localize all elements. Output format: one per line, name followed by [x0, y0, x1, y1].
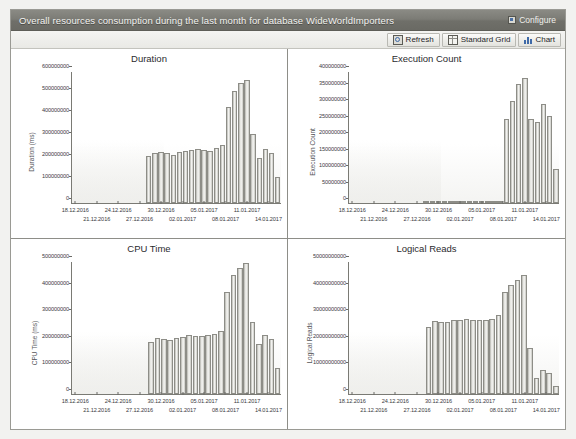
- y-axis-tick-label: 0: [66, 386, 69, 392]
- bar: [423, 201, 428, 203]
- standard-grid-button[interactable]: Standard Grid: [442, 33, 517, 47]
- y-axis-tick-label: 400000000: [42, 280, 69, 286]
- chart-button-label: Chart: [535, 35, 555, 44]
- bar: [183, 151, 188, 203]
- x-axis-ticks: 18.12.201621.12.201624.12.201627.12.2016…: [71, 395, 281, 429]
- bar: [553, 169, 558, 203]
- application-root: Overall resources consumption during the…: [0, 0, 576, 439]
- x-axis-tick-label: 27.12.2016: [403, 216, 430, 222]
- x-axis-tick-mark: [503, 201, 504, 204]
- bar: [180, 337, 186, 394]
- bar: [467, 201, 472, 203]
- bar: [195, 149, 200, 203]
- bar: [464, 319, 470, 394]
- x-axis-tick-label: 24.12.2016: [105, 398, 132, 404]
- x-axis-tick-label: 18.12.2016: [339, 207, 366, 213]
- x-axis-tick-label: 11.01.2017: [511, 207, 538, 213]
- x-axis-tick-mark: [204, 392, 205, 395]
- bar: [161, 339, 167, 394]
- y-axis-tick-label: 100000000: [42, 359, 69, 365]
- bar: [502, 292, 508, 394]
- chart-plot-area: CPU Time (ms) 01000000002000000003000000…: [11, 256, 283, 429]
- bar: [201, 150, 206, 203]
- bar-series: [72, 262, 281, 394]
- refresh-button[interactable]: Refresh: [387, 33, 440, 47]
- plot-canvas: [71, 262, 281, 395]
- bar: [224, 292, 230, 394]
- chart-panel-cpu-time[interactable]: CPU Time CPU Time (ms) 01000000002000000…: [11, 239, 288, 429]
- chart-plot-area: Logical Reads 01000000000020000000000300…: [288, 256, 561, 429]
- bar: [186, 335, 192, 394]
- x-axis-tick-mark: [524, 392, 525, 395]
- bar: [540, 370, 546, 394]
- bar: [477, 320, 483, 394]
- bar: [148, 342, 154, 394]
- bar: [146, 156, 151, 203]
- x-axis-tick-mark: [438, 392, 439, 395]
- x-axis-tick-mark: [460, 201, 461, 204]
- bar: [485, 201, 490, 203]
- plot-canvas: [71, 72, 281, 204]
- y-axis-tick-label: 200000000: [42, 333, 69, 339]
- bar: [547, 116, 552, 203]
- x-axis-tick-mark: [524, 201, 525, 204]
- x-axis-tick-label: 02.01.2017: [169, 216, 196, 222]
- bar: [257, 158, 262, 203]
- bar: [491, 201, 496, 203]
- x-axis-tick-label: 21.12.2016: [360, 407, 387, 413]
- x-axis-tick-label: 14.01.2017: [533, 216, 560, 222]
- bar: [460, 201, 465, 203]
- bar: [237, 268, 243, 394]
- chart-panel-logical-reads[interactable]: Logical Reads Logical Reads 010000000000…: [288, 239, 565, 429]
- charts-grid: Duration Duration (ms) 01000000002000000…: [11, 49, 565, 429]
- x-axis-tick-label: 11.01.2017: [234, 207, 261, 213]
- chart-panel-execution-count[interactable]: Execution Count Execution Count 05000000…: [288, 49, 565, 239]
- bar: [470, 320, 476, 394]
- x-axis-tick-label: 08.01.2017: [212, 216, 239, 222]
- x-axis-tick-mark: [96, 392, 97, 395]
- configure-button[interactable]: Configure: [506, 14, 558, 26]
- x-axis-tick-mark: [118, 392, 119, 395]
- bar-series: [72, 72, 281, 203]
- view-toolbar: Refresh Standard Grid Chart: [11, 31, 565, 49]
- x-axis-tick-mark: [503, 392, 504, 395]
- window-titlebar: Overall resources consumption during the…: [11, 10, 565, 31]
- y-axis-tick-label: 200000000: [319, 129, 346, 135]
- bar: [448, 201, 453, 203]
- bar: [269, 153, 274, 203]
- y-axis-tick-label: 200000000: [42, 151, 69, 157]
- y-axis-tick-label: 0: [343, 195, 346, 201]
- y-axis-tick-label: 20000000000: [313, 333, 346, 339]
- chart-button[interactable]: Chart: [518, 33, 561, 47]
- x-axis-tick-label: 21.12.2016: [360, 216, 387, 222]
- bar: [263, 149, 268, 203]
- y-axis-tick-label: 50000000000: [313, 253, 346, 259]
- y-axis-ticks: 0100000000200000000300000000400000000500…: [21, 262, 69, 395]
- y-axis-tick-label: 300000000: [42, 129, 69, 135]
- bar: [528, 119, 533, 203]
- bar: [199, 336, 205, 394]
- bar: [269, 339, 275, 394]
- chart-panel-duration[interactable]: Duration Duration (ms) 01000000002000000…: [11, 49, 288, 239]
- bar: [516, 84, 521, 203]
- x-axis-tick-mark: [481, 201, 482, 204]
- bar: [174, 338, 180, 394]
- x-axis-tick-mark: [373, 392, 374, 395]
- page-title: Overall resources consumption during the…: [11, 15, 394, 26]
- refresh-icon: [393, 35, 403, 45]
- x-axis-tick-mark: [460, 392, 461, 395]
- bar: [527, 348, 533, 394]
- bar-series: [349, 72, 559, 203]
- x-axis-tick-mark: [161, 201, 162, 204]
- x-axis-tick-mark: [373, 201, 374, 204]
- y-axis-tick-label: 100000000: [42, 173, 69, 179]
- x-axis-tick-label: 05.01.2017: [191, 207, 218, 213]
- x-axis-tick-label: 27.12.2016: [126, 407, 153, 413]
- x-axis-tick-mark: [546, 392, 547, 395]
- x-axis-tick-mark: [246, 392, 247, 395]
- bar: [515, 280, 521, 394]
- bar: [438, 322, 444, 394]
- bar: [238, 83, 243, 203]
- bar: [534, 378, 540, 394]
- bar: [152, 153, 157, 203]
